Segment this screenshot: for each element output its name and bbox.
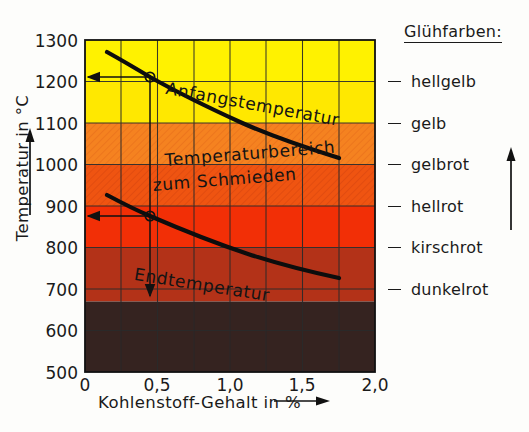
x-tick-10: 1,0 [204, 375, 256, 395]
legend-label-kirschrot: kirschrot [411, 238, 483, 257]
y-tick-700: 700 [18, 280, 78, 300]
y-axis-title: Temperatur in °C [13, 58, 39, 278]
legend-tick-hellrot [388, 206, 401, 207]
legend-tick-dunkelrot [388, 289, 401, 290]
x-axis-title: Kohlenstoff-Gehalt in % [98, 393, 301, 412]
y-axis-title-text: Temperatur in °C [13, 95, 32, 241]
legend-tick-gelbrot [388, 164, 401, 165]
y-tick-1300: 1300 [18, 31, 78, 51]
legend-label-gelbrot: gelbrot [411, 155, 469, 174]
legend-tick-hellgelb [388, 81, 401, 82]
chart-canvas [0, 0, 529, 432]
x-tick-05: 0,5 [131, 375, 183, 395]
legend-label-gelb: gelb [411, 114, 446, 133]
x-tick-0: 0 [59, 375, 111, 395]
x-tick-20: 2,0 [349, 375, 401, 395]
legend-tick-kirschrot [388, 247, 401, 248]
legend-tick-gelb [388, 123, 401, 124]
legend-label-dunkelrot: dunkelrot [411, 280, 489, 299]
x-tick-15: 1,5 [276, 375, 328, 395]
legend-label-hellgelb: hellgelb [411, 72, 476, 91]
y-tick-600: 600 [18, 321, 78, 341]
legend-heading: Glühfarben: [404, 22, 502, 43]
forging-temperature-chart: 1300 1200 1100 1000 900 800 700 600 500 … [0, 0, 529, 432]
legend-label-hellrot: hellrot [411, 197, 464, 216]
legend-direction-arrow [507, 147, 516, 230]
